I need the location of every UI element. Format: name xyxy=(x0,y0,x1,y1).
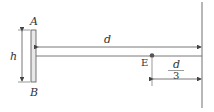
plate-ab xyxy=(31,30,36,82)
point-e xyxy=(150,53,155,58)
label-a: A xyxy=(29,15,38,28)
label-b: B xyxy=(29,86,38,99)
label-h: h xyxy=(10,50,17,63)
label-d: d xyxy=(104,33,111,46)
fraction-denominator: 3 xyxy=(173,70,179,81)
diagram-canvas: A B h d E d 3 xyxy=(0,0,214,112)
label-e: E xyxy=(141,57,148,68)
